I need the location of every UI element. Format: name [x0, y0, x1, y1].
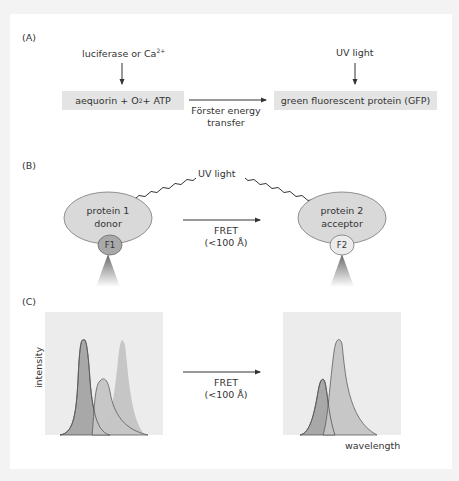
panel-b-label: (B) [22, 160, 36, 171]
protein-2-label: protein 2acceptor [302, 204, 382, 230]
protein-1-label: protein 1donor [68, 204, 148, 230]
panel-a-label: (A) [22, 32, 36, 43]
f2-label: F2 [332, 240, 352, 250]
f1-label: F1 [100, 240, 120, 250]
forster-label: Förster energytransfer [186, 105, 266, 129]
aequorin-box: aequorin + O2 + ATP [62, 91, 184, 110]
fret-label: FRET(<100 Å) [186, 377, 266, 401]
panel-c-label: (C) [22, 296, 36, 307]
uv-light-label: UV light [198, 168, 236, 179]
gfp-box: green fluorescent protein (GFP) [274, 91, 437, 110]
wavelength-axis-label: wavelength [345, 440, 400, 451]
intensity-axis-label: intensity [33, 338, 44, 398]
uv-light-label: UV light [336, 47, 374, 58]
fret-label: FRET(<100 Å) [186, 225, 266, 249]
trigger-label: luciferase or Ca2+ [82, 47, 165, 59]
emission-beam-icon [96, 254, 120, 287]
emission-beam-icon [330, 254, 354, 287]
